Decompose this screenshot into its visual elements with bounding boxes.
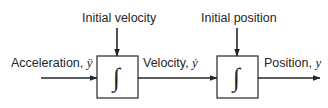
initial-position-label: Initial position (201, 11, 277, 25)
velocity-label: Velocity, ẏ (143, 55, 198, 70)
integrator-block-diagram: Acceleration, ÿ Initial velocity ∫ Veloc… (0, 0, 328, 108)
initial-velocity-label: Initial velocity (82, 11, 157, 25)
input-label: Acceleration, ÿ (11, 55, 93, 70)
output-label: Position, y (264, 55, 321, 70)
